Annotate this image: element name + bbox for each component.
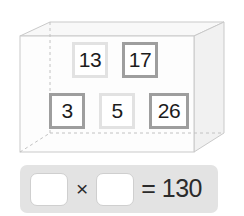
- number-tile-3[interactable]: 3: [49, 93, 85, 129]
- rectangular-prism-figure: [12, 16, 232, 161]
- number-tile-17[interactable]: 17: [122, 42, 158, 78]
- answer-blank-second[interactable]: [96, 173, 134, 206]
- number-tile-5[interactable]: 5: [99, 93, 135, 129]
- number-tile-13[interactable]: 13: [72, 42, 108, 78]
- number-tile-label: 26: [158, 100, 180, 121]
- number-tile-label: 13: [79, 49, 101, 70]
- prism-svg: [12, 16, 232, 161]
- worksheet-canvas: 13 17 3 5 26 × = 130: [0, 0, 244, 216]
- equation-panel: × = 130: [20, 165, 218, 213]
- number-tile-label: 3: [61, 100, 72, 121]
- prism-top-face: [20, 22, 224, 36]
- number-tile-label: 5: [111, 100, 122, 121]
- multiply-icon: ×: [76, 178, 88, 199]
- number-tile-26[interactable]: 26: [149, 93, 189, 129]
- equation-result: = 130: [141, 176, 202, 201]
- number-tile-label: 17: [129, 49, 151, 70]
- answer-blank-first[interactable]: [30, 173, 68, 206]
